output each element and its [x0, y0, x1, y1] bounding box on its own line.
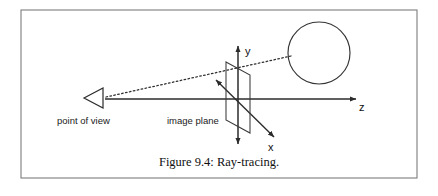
axis-x-line: [216, 80, 274, 137]
axis-z-label: z: [359, 101, 365, 113]
ray-line: [106, 56, 291, 97]
figure-caption: Figure 9.4: Ray-tracing.: [159, 155, 279, 169]
image-plane-label: image plane: [167, 115, 219, 126]
sphere-object: [288, 22, 350, 84]
axis-x-label: x: [268, 141, 274, 153]
axis-y-label: y: [245, 45, 251, 57]
figure-border: [21, 10, 417, 178]
point-of-view-label: point of view: [57, 115, 110, 126]
ray-tracing-figure: y x z point of view image plane Figure 9…: [0, 0, 438, 196]
eye-triangle: [84, 88, 103, 108]
figure-page: y x z point of view image plane Figure 9…: [0, 0, 438, 196]
